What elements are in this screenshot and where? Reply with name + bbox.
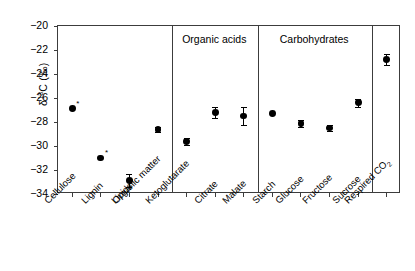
y-tick-label: −28 bbox=[16, 115, 48, 127]
error-bar-cap bbox=[241, 125, 247, 126]
y-tick-label: −30 bbox=[16, 139, 48, 151]
y-tick-mark bbox=[54, 74, 59, 75]
error-bar-cap bbox=[241, 107, 247, 108]
y-tick-label: −26 bbox=[16, 91, 48, 103]
x-tick-mark bbox=[272, 192, 273, 197]
x-tick-mark bbox=[186, 192, 187, 197]
data-point-marker bbox=[155, 126, 162, 133]
y-tick-mark bbox=[54, 98, 59, 99]
plot-area: −20−22−24−26−28−30−32−34** bbox=[57, 25, 400, 193]
data-point-marker bbox=[383, 56, 390, 63]
x-tick-mark bbox=[386, 192, 387, 197]
y-tick-mark bbox=[54, 170, 59, 171]
error-bar-cap bbox=[327, 131, 333, 132]
x-tick-mark bbox=[243, 192, 244, 197]
data-point-marker bbox=[240, 113, 247, 120]
error-bar-cap bbox=[184, 145, 190, 146]
x-tick-mark bbox=[329, 192, 330, 197]
x-tick-mark bbox=[100, 192, 101, 197]
error-bar-cap bbox=[298, 127, 304, 128]
y-tick-label: −32 bbox=[16, 163, 48, 175]
y-tick-mark bbox=[54, 122, 59, 123]
data-point-marker bbox=[183, 138, 190, 145]
data-point-marker bbox=[69, 105, 76, 112]
y-tick-label: −22 bbox=[16, 43, 48, 55]
x-tick-mark bbox=[72, 192, 73, 197]
panel-header: Organic acids bbox=[182, 33, 246, 45]
y-tick-mark bbox=[54, 146, 59, 147]
significance-asterisk: * bbox=[105, 149, 108, 157]
panel-header: Carbohydrates bbox=[280, 33, 349, 45]
error-bar-cap bbox=[384, 54, 390, 55]
data-point-marker bbox=[355, 99, 362, 106]
error-bar-cap bbox=[212, 118, 218, 119]
significance-asterisk: * bbox=[76, 100, 79, 108]
y-tick-mark bbox=[54, 26, 59, 27]
data-point-marker bbox=[212, 109, 219, 116]
data-point-marker bbox=[269, 110, 276, 117]
y-tick-label: −24 bbox=[16, 67, 48, 79]
figure-root: δ13C (‰) −20−22−24−26−28−30−32−34** Orga… bbox=[0, 0, 415, 271]
error-bar-cap bbox=[212, 107, 218, 108]
error-bar-cap bbox=[384, 65, 390, 66]
data-point-marker bbox=[298, 120, 305, 127]
y-tick-mark bbox=[54, 50, 59, 51]
panel-divider bbox=[258, 26, 259, 192]
y-tick-label: −20 bbox=[16, 19, 48, 31]
error-bar-cap bbox=[355, 107, 361, 108]
x-tick-mark bbox=[215, 192, 216, 197]
data-point-marker bbox=[97, 155, 104, 162]
